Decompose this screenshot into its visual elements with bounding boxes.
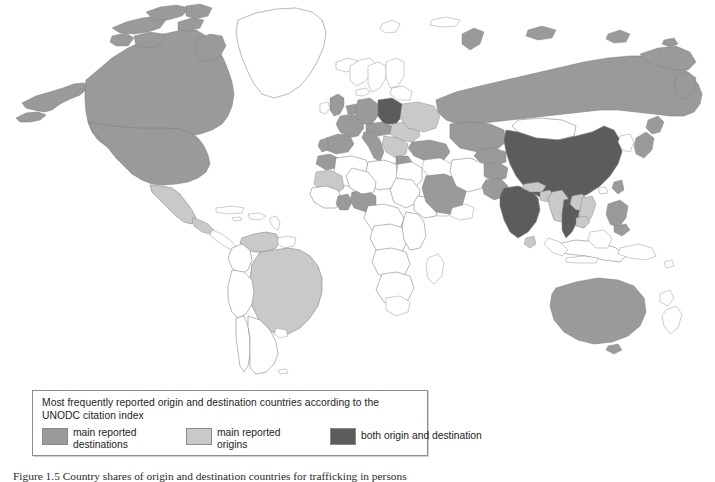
- region-sumatra: [544, 238, 568, 256]
- region-new-zealand-south: [662, 306, 682, 334]
- region-sri-lanka: [524, 236, 536, 248]
- region-svalbard: [380, 20, 400, 33]
- region-united-kingdom: [330, 94, 344, 116]
- legend-item-both: both origin and destination: [330, 427, 482, 445]
- region-falklands: [278, 369, 288, 374]
- figure-caption-text: Figure 1.5 Country shares of origin and …: [13, 470, 703, 482]
- region-denmark: [356, 88, 370, 96]
- region-banks-island: [110, 33, 134, 46]
- legend-items: main reported destinations main reported…: [42, 427, 422, 453]
- region-franz-josef: [430, 17, 460, 27]
- legend-label-destinations: main reported destinations: [73, 427, 137, 452]
- region-ghana-benin: [336, 194, 352, 210]
- region-jamaica: [232, 217, 242, 221]
- region-guyana-suriname: [278, 236, 296, 248]
- map-legend: Most frequently reported origin and dest…: [32, 390, 428, 456]
- region-germany: [356, 98, 378, 124]
- legend-label-origins-line2: origins: [217, 439, 281, 451]
- region-new-zealand-north: [660, 290, 674, 306]
- region-kazakhstan: [450, 122, 506, 152]
- legend-label-origins-line1: main reported: [217, 427, 281, 439]
- legend-swatch-destinations: [42, 428, 68, 445]
- region-new-siberian-islands: [606, 30, 630, 43]
- region-sweden: [368, 62, 386, 92]
- region-cuba: [216, 206, 244, 214]
- region-portugal: [318, 138, 328, 152]
- region-philippines: [606, 200, 628, 228]
- region-australia: [550, 278, 646, 344]
- legend-label-both: both origin and destination: [361, 427, 482, 442]
- legend-item-destinations: main reported destinations: [42, 427, 137, 452]
- legend-title: Most frequently reported origin and dest…: [42, 396, 418, 422]
- region-nicaragua-costarica-panama: [210, 230, 236, 250]
- region-madagascar: [426, 254, 444, 284]
- region-aleutians: [16, 112, 46, 122]
- legend-label-origins: main reported origins: [217, 427, 281, 452]
- region-philippines-south: [614, 224, 630, 236]
- region-alaska: [22, 83, 88, 112]
- region-canada-arctic-3: [178, 18, 204, 31]
- region-wrangel: [662, 38, 678, 47]
- legend-label-destinations-line2: destinations: [73, 439, 137, 451]
- region-japan-north: [646, 116, 664, 134]
- region-pacific-islands: [664, 260, 674, 268]
- region-finland: [386, 58, 404, 88]
- figure-page: .c{stroke:#7d7d7d;stroke-width:.55;strok…: [0, 0, 715, 482]
- region-poland: [378, 98, 402, 124]
- region-hispaniola: [248, 213, 266, 220]
- region-tasmania: [606, 344, 622, 354]
- region-severnaya-zemlya: [526, 26, 556, 40]
- legend-swatch-both: [330, 428, 356, 445]
- region-mexico: [150, 185, 196, 224]
- region-italy: [362, 132, 384, 162]
- legend-item-origins: main reported origins: [186, 427, 281, 452]
- legend-label-both-line1: both origin and destination: [361, 430, 482, 442]
- map-svg: .c{stroke:#7d7d7d;stroke-width:.55;strok…: [0, 0, 715, 385]
- region-turkey: [408, 140, 450, 162]
- figure-caption: Figure 1.5 Country shares of origin and …: [13, 470, 703, 482]
- region-colombia: [228, 244, 252, 274]
- region-canada-arctic-2: [146, 5, 190, 20]
- region-greenland: [236, 8, 326, 98]
- region-hainan: [598, 187, 608, 194]
- region-ireland: [320, 102, 330, 114]
- region-india: [500, 186, 540, 238]
- legend-swatch-origins: [186, 428, 212, 445]
- region-ellesmere: [186, 4, 212, 19]
- region-guatemala-honduras: [192, 218, 214, 234]
- region-baltics: [390, 86, 412, 100]
- legend-label-destinations-line1: main reported: [73, 427, 137, 439]
- region-taiwan: [612, 180, 624, 194]
- region-lesser-antilles: [270, 216, 280, 230]
- region-novaya-zemlya: [462, 28, 484, 50]
- region-japan: [634, 132, 654, 158]
- world-choropleth-map: .c{stroke:#7d7d7d;stroke-width:.55;strok…: [0, 0, 715, 385]
